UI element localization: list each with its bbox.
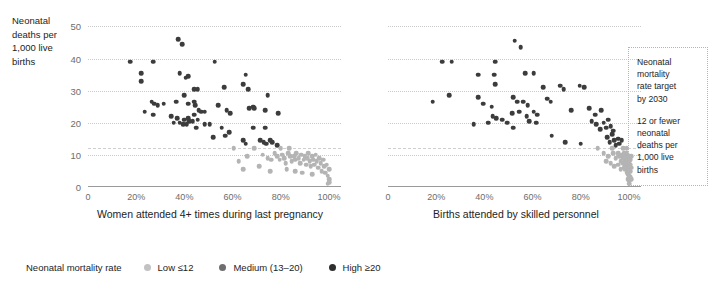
y-tick-label: 50 — [70, 21, 81, 32]
x-tick-label: 60% — [524, 192, 542, 202]
scatter-point — [619, 138, 624, 143]
target-gridline — [388, 148, 641, 149]
scatter-point — [212, 59, 217, 64]
scatter-point — [618, 167, 623, 172]
scatter-point — [610, 132, 615, 137]
scatter-point — [440, 59, 445, 64]
x-tick-label: 40% — [475, 192, 493, 202]
gridline — [88, 123, 341, 124]
scatter-point — [511, 125, 516, 130]
scatter-point — [563, 140, 568, 145]
scatter-point — [321, 157, 326, 162]
scatter-point — [246, 87, 251, 92]
scatter-point — [587, 106, 592, 111]
plot-area: 020%40%60%80%100% — [388, 20, 641, 187]
scatter-point — [594, 122, 599, 127]
gridline — [388, 26, 641, 27]
x-axis-caption: Births attended by skilled personnel — [371, 208, 661, 220]
scatter-point — [269, 157, 274, 162]
x-tick-label: 100% — [617, 192, 640, 202]
scatter-point — [527, 119, 532, 124]
scatter-point — [236, 159, 241, 164]
scatter-point — [195, 87, 200, 92]
scatter-point — [310, 172, 315, 177]
scatter-point — [492, 72, 497, 77]
scatter-point — [489, 104, 494, 109]
scatter-point — [481, 101, 486, 106]
legend-item-low[interactable]: Low ≤12 — [144, 262, 194, 273]
scatter-point — [151, 112, 156, 117]
scatter-point — [263, 108, 268, 113]
scatter-point — [244, 72, 249, 77]
legend-item-medium[interactable]: Medium (13–20) — [219, 262, 302, 273]
x-tick-label: 60% — [224, 192, 242, 202]
scatter-point — [162, 101, 167, 106]
scatter-point — [211, 135, 216, 140]
scatter-point — [193, 103, 198, 108]
gridline — [88, 91, 341, 92]
legend-label-low: Low ≤12 — [158, 262, 194, 273]
scatter-point — [511, 95, 516, 100]
scatter-point — [548, 100, 553, 105]
scatter-point — [578, 141, 583, 146]
scatter-point — [223, 133, 228, 138]
gridline — [388, 91, 641, 92]
scatter-point — [231, 146, 236, 151]
scatter-point — [327, 167, 332, 172]
y-tick-label: 30 — [70, 85, 81, 96]
scatter-point — [186, 101, 191, 106]
legend-swatch-medium-icon — [219, 264, 226, 271]
scatter-point — [325, 181, 330, 186]
scatter-point — [180, 42, 185, 47]
scatter-point — [252, 146, 257, 151]
scatter-point — [609, 161, 614, 166]
scatter-point — [128, 59, 133, 64]
scatter-point — [512, 39, 517, 44]
scatter-point — [268, 169, 273, 174]
scatter-point — [598, 127, 603, 132]
scatter-point — [194, 125, 199, 130]
x-axis-caption: Women attended 4+ times during last preg… — [60, 208, 360, 220]
target-annotation-box: Neonatal mortality rate target by 2030 1… — [628, 47, 708, 186]
scatter-point — [604, 159, 609, 164]
scatter-point — [293, 169, 298, 174]
scatter-point — [257, 164, 262, 169]
scatter-point — [260, 153, 265, 158]
legend-item-high[interactable]: High ≥20 — [329, 262, 381, 273]
scatter-point — [595, 146, 600, 151]
scatter-point — [493, 59, 498, 64]
scatter-point — [517, 109, 522, 114]
scatter-point — [447, 93, 452, 98]
scatter-point — [171, 120, 176, 125]
scatter-point — [276, 111, 281, 116]
gridline — [388, 59, 641, 60]
annotation-paragraph-target: Neonatal mortality rate target by 2030 — [637, 56, 699, 105]
x-axis-line — [88, 186, 341, 187]
scatter-point — [601, 151, 606, 156]
scatter-point — [265, 93, 270, 98]
scatter-point — [562, 87, 567, 92]
scatter-point — [177, 71, 182, 76]
x-axis-line — [388, 186, 641, 187]
scatter-point — [515, 100, 520, 105]
y-tick-label: 20 — [70, 117, 81, 128]
scatter-point — [534, 120, 539, 125]
scatter-point — [300, 170, 305, 175]
legend-swatch-low-icon — [144, 264, 151, 271]
scatter-point — [228, 111, 233, 116]
scatter-point — [525, 103, 530, 108]
scatter-point — [430, 100, 435, 105]
scatter-point — [186, 74, 191, 79]
scatter-point — [270, 140, 275, 145]
y-tick-label: 10 — [70, 149, 81, 160]
scatter-point — [606, 117, 611, 122]
scatter-point — [278, 146, 283, 151]
scatter-point — [493, 82, 498, 87]
x-tick-label: 40% — [175, 192, 193, 202]
scatter-point — [476, 72, 481, 77]
scatter-point — [283, 161, 288, 166]
legend: Neonatal mortality rate Low ≤12 Medium (… — [26, 262, 407, 273]
legend-title: Neonatal mortality rate — [26, 262, 122, 273]
annotation-paragraph-detail: 12 or fewer neonatal deaths per 1,000 li… — [637, 115, 699, 176]
scatter-point — [550, 133, 555, 138]
